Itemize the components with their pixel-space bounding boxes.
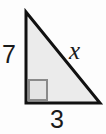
label-hypotenuse: x xyxy=(69,38,80,63)
right-angle-square-icon xyxy=(29,80,47,100)
triangle-figure: 7 x 3 xyxy=(0,0,106,134)
label-vertical-leg: 7 xyxy=(2,42,16,67)
label-horizontal-leg: 3 xyxy=(50,107,64,132)
